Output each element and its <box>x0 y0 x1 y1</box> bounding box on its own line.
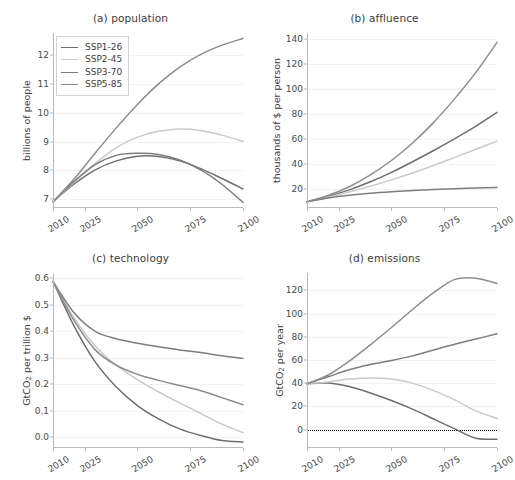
xtick-label: 2075 <box>183 214 208 234</box>
legend-item-ssp1-26[interactable]: SSP1-26 <box>61 41 122 54</box>
xtick-mark <box>190 448 191 451</box>
xtick-label: 2100 <box>490 454 515 474</box>
xtick-mark <box>391 208 392 211</box>
ytick-label: 9 <box>43 137 49 147</box>
axis-spine-left <box>307 273 308 448</box>
xtick-label: 2025 <box>332 214 357 234</box>
legend-swatch-ssp2-45 <box>61 59 78 60</box>
ytick-label: 20 <box>292 401 303 411</box>
xtick-label: 2025 <box>78 214 103 234</box>
series-line-ssp5-85 <box>307 42 497 201</box>
axis-spine-left <box>53 273 54 448</box>
y-axis-label-c: GtCO2 per trillion $ <box>21 273 33 448</box>
ytick-label: 0.5 <box>35 300 49 310</box>
xtick-mark <box>53 208 54 211</box>
axis-spine-bottom <box>307 447 497 448</box>
legend: SSP1-26SSP2-45SSP3-70SSP5-85 <box>56 36 129 96</box>
xtick-mark <box>497 208 498 211</box>
xtick-mark <box>444 208 445 211</box>
axis-spine-left <box>53 33 54 208</box>
panel-b: (b) affluence204060801001201402010202520… <box>254 0 515 240</box>
xtick-label: 2050 <box>385 454 410 474</box>
ytick-label: 0 <box>297 425 303 435</box>
ytick-label: 0.2 <box>35 379 49 389</box>
plot-area-c: 0.00.10.20.30.40.50.62010202520502075210… <box>53 273 243 448</box>
ytick-label: 12 <box>38 50 49 60</box>
ytick-label: 0.6 <box>35 273 49 283</box>
xtick-label: 2025 <box>332 454 357 474</box>
ytick-label: 0.4 <box>35 326 49 336</box>
legend-swatch-ssp5-85 <box>61 84 78 85</box>
panel-title-d: (d) emissions <box>254 252 515 264</box>
panel-a: (a) population78910111220102025205020752… <box>0 0 261 240</box>
xtick-mark <box>444 448 445 451</box>
axis-spine-bottom <box>53 447 243 448</box>
xtick-label: 2050 <box>385 214 410 234</box>
xtick-mark <box>307 208 308 211</box>
ytick-label: 0.1 <box>35 406 49 416</box>
legend-item-ssp5-85[interactable]: SSP5-85 <box>61 79 122 92</box>
ytick-label: 0.3 <box>35 353 49 363</box>
xtick-mark <box>85 208 86 211</box>
ssp-scenario-figure: (a) population78910111220102025205020752… <box>0 0 515 480</box>
ytick-label: 7 <box>43 194 49 204</box>
panel-title-c: (c) technology <box>0 252 261 264</box>
legend-label: SSP1-26 <box>85 43 122 52</box>
xtick-mark <box>339 448 340 451</box>
y-axis-label-d: GtCO2 per year <box>274 273 286 448</box>
xtick-mark <box>243 448 244 451</box>
legend-swatch-ssp3-70 <box>61 72 78 73</box>
xtick-label: 2050 <box>131 454 156 474</box>
xtick-label: 2075 <box>437 454 462 474</box>
xtick-mark <box>85 448 86 451</box>
xtick-mark <box>243 208 244 211</box>
series-line-ssp3-70 <box>53 281 243 358</box>
xtick-label: 2100 <box>490 214 515 234</box>
series-line-ssp5-85 <box>307 278 497 384</box>
xtick-label: 2075 <box>437 214 462 234</box>
ytick-label: 120 <box>286 285 303 295</box>
xtick-label: 2075 <box>183 454 208 474</box>
ytick-label: 20 <box>292 184 303 194</box>
xtick-mark <box>497 448 498 451</box>
legend-item-ssp2-45[interactable]: SSP2-45 <box>61 54 122 67</box>
series-lines-c <box>53 273 243 448</box>
series-line-ssp2-45 <box>53 281 243 432</box>
axis-spine-bottom <box>53 207 243 208</box>
ytick-label: 80 <box>292 109 303 119</box>
legend-swatch-ssp1-26 <box>61 47 78 48</box>
legend-label: SSP5-85 <box>85 80 122 89</box>
legend-label: SSP3-70 <box>85 68 122 77</box>
legend-item-ssp3-70[interactable]: SSP3-70 <box>61 66 122 79</box>
xtick-label: 2050 <box>131 214 156 234</box>
panel-c: (c) technology0.00.10.20.30.40.50.620102… <box>0 240 261 480</box>
panel-title-a: (a) population <box>0 12 261 24</box>
xtick-label: 2010 <box>46 454 71 474</box>
ytick-label: 140 <box>286 34 303 44</box>
xtick-mark <box>137 448 138 451</box>
axis-spine-bottom <box>307 207 497 208</box>
xtick-label: 2010 <box>300 454 325 474</box>
ytick-label: 40 <box>292 378 303 388</box>
xtick-mark <box>307 448 308 451</box>
axis-spine-left <box>307 33 308 208</box>
ytick-label: 11 <box>38 79 49 89</box>
ytick-label: 100 <box>286 309 303 319</box>
plot-area-d: 02040608010012020102025205020752100 <box>307 273 497 448</box>
ytick-label: 40 <box>292 159 303 169</box>
ytick-label: 80 <box>292 332 303 342</box>
ytick-label: 60 <box>292 355 303 365</box>
ytick-label: 10 <box>38 108 49 118</box>
y-axis-label-b: thousands of $ per person <box>271 33 282 208</box>
ytick-label: 0.0 <box>35 432 49 442</box>
xtick-label: 2025 <box>78 454 103 474</box>
series-lines-d <box>307 273 497 448</box>
ytick-label: 100 <box>286 84 303 94</box>
series-line-ssp2-45 <box>53 129 243 202</box>
legend-label: SSP2-45 <box>85 55 122 64</box>
series-line-ssp1-26 <box>53 281 243 441</box>
series-line-ssp1-26 <box>307 383 497 439</box>
y-axis-label-a: billions of people <box>21 33 32 208</box>
xtick-mark <box>137 208 138 211</box>
series-lines-b <box>307 33 497 208</box>
